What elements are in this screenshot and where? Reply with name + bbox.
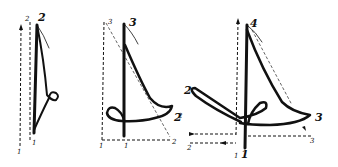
label-left-edge: 2	[177, 112, 183, 120]
arrow-up-icon	[19, 24, 23, 30]
label-bottom-left: 1	[99, 142, 103, 150]
stroke-1-vertical	[34, 25, 37, 133]
label-stroke-bottom: 1	[241, 148, 249, 161]
label-bottom-mid: 1	[124, 142, 128, 150]
label-stroke-top: 3	[129, 16, 137, 29]
stroke-2-loop	[107, 45, 172, 121]
arrow-up-icon	[236, 18, 240, 24]
figure-2: 3 3 2 1 1 2	[99, 16, 182, 150]
label-guide-bottom: 1	[17, 148, 21, 156]
label-stroke-bottom: 1	[32, 139, 36, 147]
figure-3: 4 2 3 1 1 2 3 2	[177, 17, 323, 161]
arrow-left-icon	[220, 141, 226, 145]
label-guide-bottom-right: 3	[310, 137, 315, 145]
guide-diagonal	[252, 30, 292, 105]
label-stroke-left: 2	[183, 84, 192, 97]
stroke-order-diagram: 2 2 1 1 3 3 2 1 1 2 4 2 3 1 1	[0, 0, 338, 167]
label-stroke-top: 2	[37, 11, 46, 24]
label-guide-top: 3	[108, 18, 113, 26]
stroke-1-vertical	[245, 25, 247, 148]
guide-line-outer	[20, 28, 21, 148]
guide-vertical	[102, 22, 104, 140]
label-stroke-right: 3	[315, 111, 323, 124]
label-guide-bottom-left: 2	[186, 144, 192, 152]
arrow-right-icon	[189, 132, 195, 136]
stroke-3-curve	[240, 30, 310, 125]
label-stroke-top: 4	[250, 17, 258, 30]
label-guide-bottom: 1	[234, 152, 238, 160]
figure-1: 2 2 1 1	[17, 11, 58, 156]
arrow-icon	[302, 126, 306, 131]
stroke-2-loop	[192, 88, 267, 124]
label-bottom-right: 2	[171, 138, 177, 146]
label-guide-top: 2	[24, 15, 30, 23]
